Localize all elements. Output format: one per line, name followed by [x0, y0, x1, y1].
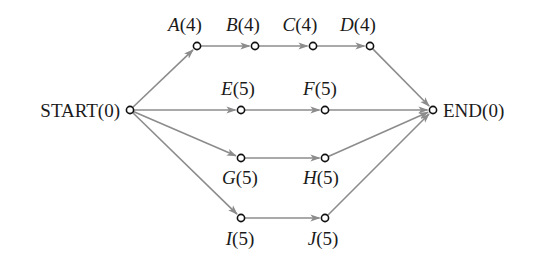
node-label-end: END(0) [443, 100, 504, 122]
node-label-g: G(5) [222, 167, 258, 189]
edge-start-to-a [133, 50, 193, 108]
labels-group: START(0)A(4)B(4)C(4)D(4)E(5)F(5)G(5)H(5)… [40, 14, 504, 250]
node-label-c: C(4) [283, 14, 318, 36]
node-label-j: J(5) [308, 228, 339, 250]
node-letter: H [302, 167, 318, 188]
node-d-circle-icon [366, 42, 373, 49]
edge-d-to-end [373, 49, 430, 106]
node-duration: (5) [232, 228, 254, 250]
node-label-b: B(4) [226, 14, 260, 36]
edge-j-to-end [328, 114, 430, 216]
node-letter: F [302, 78, 315, 99]
node-duration: (5) [316, 228, 338, 250]
node-duration: (4) [238, 14, 260, 36]
node-duration: (0) [98, 100, 120, 122]
node-label-e: E(5) [220, 78, 255, 100]
node-letter: C [283, 14, 296, 35]
node-f-circle-icon [321, 106, 328, 113]
edge-h-to-end [328, 112, 428, 156]
node-letter: B [226, 14, 238, 35]
edge-start-to-g [133, 111, 236, 155]
node-duration: (5) [315, 78, 337, 100]
node-duration: (5) [317, 167, 339, 189]
node-letter: E [220, 78, 233, 99]
node-duration: (4) [180, 14, 202, 36]
node-label-h: H(5) [302, 167, 339, 189]
node-letter: G [222, 167, 236, 188]
node-label-a: A(4) [166, 14, 202, 36]
edge-start-to-i [133, 113, 237, 215]
node-duration: (0) [482, 100, 504, 122]
node-label-d: D(4) [339, 14, 376, 36]
node-letter: START [40, 100, 98, 121]
node-end-circle-icon [429, 106, 436, 113]
node-h-circle-icon [321, 154, 328, 161]
node-e-circle-icon [237, 106, 244, 113]
node-letter: END [443, 100, 482, 121]
activity-network-diagram: START(0)A(4)B(4)C(4)D(4)E(5)F(5)G(5)H(5)… [0, 0, 541, 272]
node-i-circle-icon [237, 214, 244, 221]
node-duration: (5) [233, 78, 255, 100]
node-b-circle-icon [251, 42, 258, 49]
node-duration: (4) [354, 14, 376, 36]
node-c-circle-icon [309, 42, 316, 49]
node-letter: D [339, 14, 354, 35]
edges-group [133, 46, 430, 218]
node-duration: (4) [295, 14, 317, 36]
node-label-start: START(0) [40, 100, 120, 122]
node-label-i: I(5) [225, 228, 254, 250]
node-label-f: F(5) [302, 78, 337, 100]
node-duration: (5) [236, 167, 258, 189]
node-start-circle-icon [126, 106, 133, 113]
node-g-circle-icon [237, 154, 244, 161]
node-j-circle-icon [321, 214, 328, 221]
node-a-circle-icon [193, 42, 200, 49]
node-letter: A [166, 14, 180, 35]
